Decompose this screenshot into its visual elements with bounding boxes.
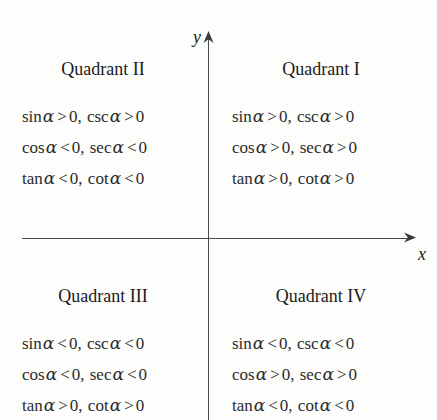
quadrant-1-title: Quadrant I — [226, 58, 412, 80]
formula-line: sinα>0, cscα>0 — [226, 101, 412, 132]
formula-line: tanα<0, cotα<0 — [16, 163, 202, 194]
x-axis-line — [22, 238, 413, 239]
quadrant-4-block: Quadrant IV sinα<0, cscα<0 cosα>0, secα>… — [226, 285, 412, 420]
quadrant-1-block: Quadrant I sinα>0, cscα>0 cosα>0, secα>0… — [226, 58, 412, 194]
quadrant-2-block: Quadrant II sinα>0, cscα>0 cosα<0, secα<… — [16, 58, 202, 194]
formula-line: cosα<0, secα<0 — [16, 132, 202, 163]
quadrant-sign-chart: y x Quadrant II sinα>0, cscα>0 cosα<0, s… — [0, 0, 437, 420]
quadrant-1-formula-list: sinα>0, cscα>0 cosα>0, secα>0 tanα>0, co… — [226, 101, 412, 194]
quadrant-2-formula-list: sinα>0, cscα>0 cosα<0, secα<0 tanα<0, co… — [16, 101, 202, 194]
y-axis-arrow-icon — [203, 31, 214, 43]
quadrant-4-formula-list: sinα<0, cscα<0 cosα>0, secα>0 tanα<0, co… — [226, 328, 412, 420]
x-axis-label: x — [418, 245, 426, 263]
quadrant-4-title: Quadrant IV — [226, 285, 412, 307]
formula-line: cosα>0, secα>0 — [226, 359, 412, 390]
formula-line: cosα<0, secα<0 — [16, 359, 202, 390]
y-axis-label: y — [193, 28, 201, 46]
formula-line: sinα<0, cscα<0 — [16, 328, 202, 359]
formula-line: cosα>0, secα>0 — [226, 132, 412, 163]
formula-line: tanα>0, cotα>0 — [226, 163, 412, 194]
formula-line: tanα>0, cotα>0 — [16, 390, 202, 420]
y-axis-line — [208, 38, 209, 420]
formula-line: sinα<0, cscα<0 — [226, 328, 412, 359]
formula-line: sinα>0, cscα>0 — [16, 101, 202, 132]
formula-line: tanα<0, cotα<0 — [226, 390, 412, 420]
quadrant-2-title: Quadrant II — [16, 58, 202, 80]
quadrant-3-block: Quadrant III sinα<0, cscα<0 cosα<0, secα… — [16, 285, 202, 420]
x-axis-arrow-icon — [404, 232, 416, 243]
quadrant-3-formula-list: sinα<0, cscα<0 cosα<0, secα<0 tanα>0, co… — [16, 328, 202, 420]
quadrant-3-title: Quadrant III — [16, 285, 202, 307]
